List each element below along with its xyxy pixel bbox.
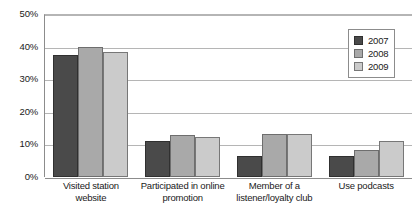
bar-2009[interactable] (379, 141, 404, 178)
x-axis: Visited station websiteParticipated in o… (45, 180, 412, 203)
bar-2008[interactable] (170, 135, 195, 177)
bar-group-bars (137, 14, 229, 177)
bar-group-bars (45, 14, 137, 177)
legend-swatch-icon (354, 62, 363, 71)
y-axis-tick-label: 20% (0, 106, 38, 117)
bar-2008[interactable] (354, 150, 379, 177)
legend-swatch-icon (354, 36, 363, 45)
legend-item-label: 2009 (368, 61, 388, 72)
y-axis-tick-label: 40% (0, 41, 38, 52)
y-axis-tick-label: 50% (0, 8, 38, 19)
bar-2008[interactable] (78, 47, 103, 177)
y-axis-tick-label: 30% (0, 73, 38, 84)
y-axis-tick-label: 10% (0, 138, 38, 149)
bar-2009[interactable] (287, 134, 312, 177)
legend-item[interactable]: 2009 (354, 60, 388, 73)
x-axis-category-label: Member of a listener/loyalty club (229, 180, 321, 203)
y-axis-tick-label: 0% (0, 171, 38, 182)
legend: 200720082009 (348, 29, 395, 78)
bar-group (137, 14, 229, 177)
axis-baseline (45, 178, 412, 179)
legend-item-label: 2008 (368, 48, 388, 59)
bar-2007[interactable] (237, 156, 262, 177)
y-axis: 50%40%30%20%10%0% (0, 14, 40, 177)
bar-2007[interactable] (329, 156, 354, 177)
bar-2007[interactable] (145, 141, 170, 177)
bar-group (229, 14, 321, 177)
bar-group (45, 14, 137, 177)
bar-2009[interactable] (103, 52, 128, 178)
bar-2008[interactable] (262, 134, 287, 177)
x-axis-category-label: Visited station website (45, 180, 137, 203)
bar-group-bars (229, 14, 321, 177)
legend-swatch-icon (354, 49, 363, 58)
x-axis-category-label: Use podcasts (320, 180, 412, 203)
legend-item[interactable]: 2008 (354, 47, 388, 60)
bar-chart: 50%40%30%20%10%0% Visited station websit… (0, 0, 420, 213)
bar-2007[interactable] (53, 55, 78, 177)
legend-item-label: 2007 (368, 35, 388, 46)
bar-2009[interactable] (195, 137, 220, 177)
legend-item[interactable]: 2007 (354, 34, 388, 47)
x-axis-category-label: Participated in online promotion (137, 180, 229, 203)
